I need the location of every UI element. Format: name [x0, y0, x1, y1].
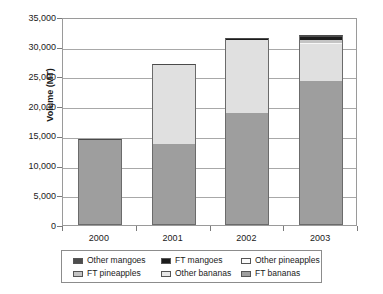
bar-segment — [299, 40, 343, 43]
legend-swatch — [161, 258, 171, 264]
bar-segment — [225, 113, 269, 225]
x-axis-tick-label: 2002 — [216, 233, 276, 243]
legend-item[interactable]: Other bananas — [161, 269, 231, 278]
bar-segment — [225, 38, 269, 39]
bar-segment — [225, 40, 269, 113]
legend-item[interactable]: FT mangoes — [161, 256, 223, 265]
y-axis-tick-label: 15,000 — [4, 132, 56, 141]
y-axis-tick-label: 0 — [4, 222, 56, 231]
legend-label: FT bananas — [255, 269, 300, 278]
stacked-bar-chart: Volume (MT) 05,00010,00015,00020,00025,0… — [0, 0, 383, 294]
x-axis-tick-mark — [283, 226, 284, 231]
legend-swatch — [73, 271, 83, 277]
legend-label: FT mangoes — [175, 256, 223, 265]
bar-stack — [78, 17, 122, 225]
legend-label: FT pineapples — [87, 269, 141, 278]
y-axis-title: Volume (MT) — [45, 45, 59, 145]
legend-label: Other pineapples — [255, 256, 320, 265]
bar-segment — [152, 64, 196, 144]
bar-segment — [299, 35, 343, 37]
legend-swatch — [241, 271, 251, 277]
x-axis-tick-mark — [62, 226, 63, 231]
legend-item[interactable]: Other mangoes — [73, 256, 146, 265]
y-axis-tick-label: 35,000 — [4, 14, 56, 23]
x-axis-tick-label: 2000 — [69, 233, 129, 243]
x-axis-tick-label: 2003 — [290, 233, 350, 243]
y-axis-tick-label: 30,000 — [4, 43, 56, 52]
y-axis-tick-label: 20,000 — [4, 103, 56, 112]
legend-item[interactable]: FT pineapples — [73, 269, 141, 278]
legend-swatch — [161, 271, 171, 277]
legend-swatch — [73, 258, 83, 264]
bar-segment — [299, 37, 343, 39]
y-axis-tick-label: 25,000 — [4, 73, 56, 82]
legend-item[interactable]: FT bananas — [241, 269, 300, 278]
legend-item[interactable]: Other pineapples — [241, 256, 320, 265]
y-axis-tick-label: 10,000 — [4, 162, 56, 171]
legend-row: FT pineapplesOther bananasFT bananas — [67, 267, 316, 280]
bar-stack — [299, 17, 343, 225]
bar-segment — [78, 139, 122, 225]
chart-legend: Other mangoesFT mangoesOther pineapples … — [61, 250, 322, 283]
bar-stack — [225, 17, 269, 225]
legend-label: Other mangoes — [87, 256, 146, 265]
x-axis-tick-mark — [210, 226, 211, 231]
bar-segment — [299, 44, 343, 80]
bar-segment — [299, 43, 343, 45]
x-axis-tick-mark — [357, 226, 358, 231]
legend-label: Other bananas — [175, 269, 231, 278]
y-axis-tick-label: 5,000 — [4, 192, 56, 201]
x-axis-tick-label: 2001 — [143, 233, 203, 243]
legend-row: Other mangoesFT mangoesOther pineapples — [67, 254, 316, 267]
bar-segment — [299, 81, 343, 225]
bar-stack — [152, 17, 196, 225]
bar-segment — [152, 144, 196, 225]
plot-area — [62, 18, 357, 226]
legend-swatch — [241, 258, 251, 264]
x-axis-tick-mark — [136, 226, 137, 231]
